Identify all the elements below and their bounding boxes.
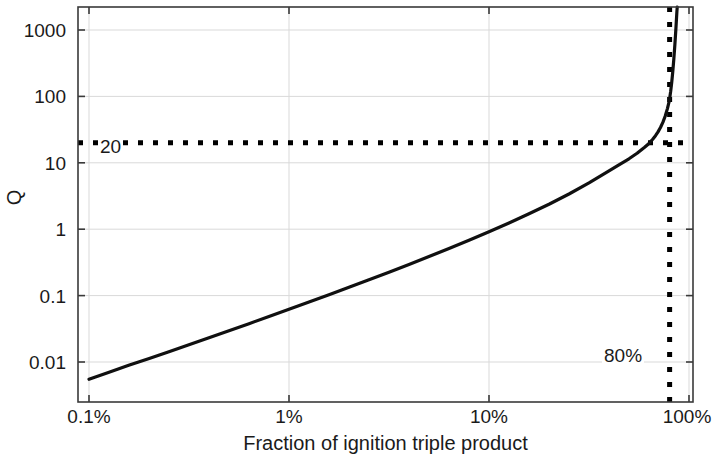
chart-figure: 1000 100 10 1 0.1 0.01 0.1% 1% 10% 100% … xyxy=(0,0,718,466)
ytick-label-1: 1 xyxy=(0,220,66,239)
plot-background xyxy=(78,7,693,402)
ytick-label-1000: 1000 xyxy=(0,21,66,40)
x-axis-title: Fraction of ignition triple product xyxy=(78,432,693,455)
ytick-label-0.1: 0.1 xyxy=(0,287,66,306)
q-threshold-label: 20 xyxy=(98,137,123,156)
qplot-svg xyxy=(0,0,718,466)
ytick-label-100: 100 xyxy=(0,87,66,106)
xtick-label-1pct: 1% xyxy=(239,407,339,426)
ytick-label-10: 10 xyxy=(0,154,66,173)
xtick-label-0.1pct: 0.1% xyxy=(39,407,139,426)
fraction-threshold-label: 80% xyxy=(602,346,644,365)
ytick-label-0.01: 0.01 xyxy=(0,353,66,372)
xtick-label-100pct: 100% xyxy=(637,407,718,426)
y-axis-title: Q xyxy=(3,174,26,222)
xtick-label-10pct: 10% xyxy=(439,407,539,426)
